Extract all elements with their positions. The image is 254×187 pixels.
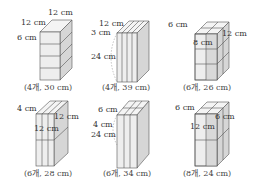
figure-c: 6 cm 12 cm 8 cm (6개, 26 cm)	[165, 0, 254, 90]
figure-d: 4 cm 12 cm 12 cm (6개, 28 cm)	[0, 90, 85, 187]
figure-f: 6 cm 6 cm 12 cm (8개, 24 cm)	[165, 90, 254, 187]
vertical-slabs-drawing	[85, 0, 170, 90]
dim-label-depth: 6 cm	[98, 105, 118, 114]
dim-label-depth: 12 cm	[54, 112, 79, 121]
figure-caption: (6개, 28 cm)	[24, 169, 72, 178]
dim-label-height: 24 cm	[91, 52, 116, 61]
dim-label-height: 12 cm	[222, 29, 247, 38]
figure-caption: (6개, 34 cm)	[103, 169, 151, 178]
dim-label-depth: 12 cm	[21, 18, 46, 27]
dim-label-width: 12 cm	[99, 19, 124, 28]
dim-label-depth: 6 cm	[168, 20, 188, 29]
dim-label-thickness: 4 cm	[93, 120, 113, 129]
dim-label-thickness: 3 cm	[91, 28, 111, 37]
dim-label-height: 6 cm	[17, 33, 37, 42]
dim-label-width: 12 cm	[48, 8, 73, 17]
figure-caption: (8개, 24 cm)	[183, 169, 231, 178]
dim-label-width: 8 cm	[193, 38, 213, 47]
dim-label-height: 24 cm	[91, 130, 116, 139]
dim-label-thickness: 4 cm	[17, 104, 37, 113]
figure-b: 12 cm 3 cm 24 cm (4개, 39 cm)	[85, 0, 170, 90]
dim-label-height: 12 cm	[190, 122, 215, 131]
dim-label-height: 12 cm	[34, 124, 59, 133]
figure-a: 12 cm 12 cm 6 cm (4개, 30 cm)	[0, 0, 85, 90]
dim-label-depth: 6 cm	[175, 103, 195, 112]
dim-label-width: 6 cm	[215, 112, 235, 121]
figure-e: 6 cm 4 cm 24 cm (6개, 34 cm)	[85, 90, 170, 187]
